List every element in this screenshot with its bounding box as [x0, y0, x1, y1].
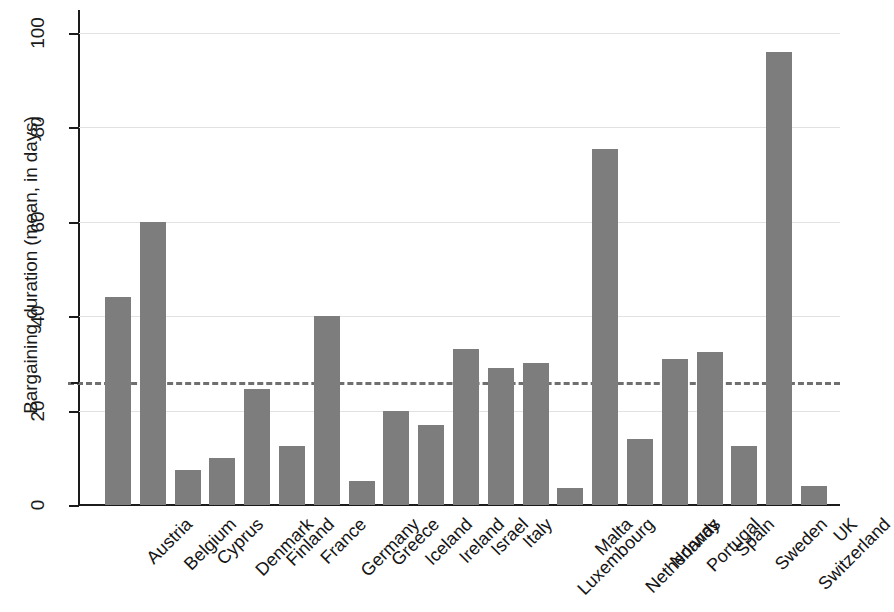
- x-tick-label: Sweden: [771, 514, 831, 574]
- bar: [383, 411, 409, 505]
- y-axis-title: Bargaining duration (mean, in days): [14, 0, 48, 530]
- y-tick-label: 80: [27, 105, 49, 149]
- bar: [592, 149, 618, 505]
- y-tick-mark: [69, 33, 79, 35]
- bar: [627, 439, 653, 505]
- y-tick-mark: [69, 316, 79, 318]
- bar: [453, 349, 479, 505]
- gridline: [78, 33, 840, 34]
- y-tick-label: 20: [27, 389, 49, 433]
- bar: [244, 389, 270, 505]
- bar: [175, 470, 201, 505]
- y-tick-mark: [69, 505, 79, 507]
- bar: [209, 458, 235, 505]
- y-tick-label: 60: [27, 200, 49, 244]
- plot-area: [78, 8, 840, 506]
- x-tick-label-wrapper: Sweden: [771, 514, 831, 574]
- bar: [523, 363, 549, 505]
- bar: [662, 359, 688, 505]
- bar: [140, 222, 166, 505]
- bar: [766, 52, 792, 505]
- bar: [279, 446, 305, 505]
- bar: [418, 425, 444, 505]
- reference-line-tick-mark: [71, 382, 79, 384]
- gridline: [78, 222, 840, 223]
- bar: [105, 297, 131, 505]
- gridline: [78, 316, 840, 317]
- y-tick-mark: [69, 127, 79, 129]
- bar: [731, 446, 757, 505]
- y-tick-label: 100: [27, 11, 49, 55]
- y-tick-label: 40: [27, 294, 49, 338]
- gridline: [78, 127, 840, 128]
- bar: [801, 486, 827, 505]
- bar: [488, 368, 514, 505]
- bar: [314, 316, 340, 505]
- y-tick-label: 0: [27, 483, 49, 527]
- bar: [349, 481, 375, 505]
- y-tick-mark: [69, 222, 79, 224]
- y-tick-mark: [69, 411, 79, 413]
- bar: [557, 488, 583, 505]
- bar: [697, 352, 723, 505]
